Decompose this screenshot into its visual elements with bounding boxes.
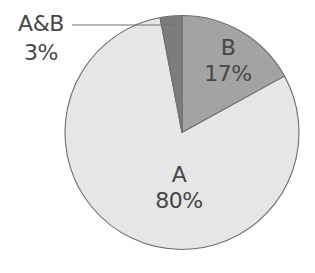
slice-label-b: B 17% bbox=[199, 35, 257, 87]
slice-label-ab: A&B 3% bbox=[10, 11, 72, 66]
b-name: B bbox=[199, 35, 257, 61]
a-name: A bbox=[149, 162, 209, 188]
ab-name: A&B bbox=[10, 11, 72, 37]
ab-percent: 3% bbox=[10, 40, 72, 66]
pie-slices bbox=[65, 16, 299, 250]
a-percent: 80% bbox=[149, 188, 209, 214]
slice-label-a: A 80% bbox=[149, 162, 209, 214]
b-percent: 17% bbox=[199, 61, 257, 87]
